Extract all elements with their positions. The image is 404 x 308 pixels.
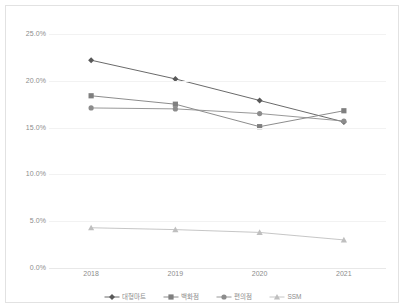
data-point-marker (88, 57, 94, 63)
gridline (49, 268, 386, 269)
data-point-marker (257, 97, 263, 103)
y-axis-tick-label: 10.0% (8, 170, 46, 177)
series-line (91, 60, 344, 122)
data-point-marker (173, 102, 178, 107)
chart-frame: 25.0%20.0%15.0%10.0%5.0%0.0% 20182019202… (5, 5, 399, 303)
x-axis-tick-label: 2018 (83, 270, 99, 277)
legend-diamond-marker-icon (104, 287, 120, 305)
chart-series-layer (49, 34, 386, 268)
gridline (49, 174, 386, 175)
data-point-marker (257, 111, 262, 116)
series-line (91, 108, 344, 121)
x-axis-tick-label: 2021 (336, 270, 352, 277)
series-triangle (88, 225, 347, 243)
series-line (91, 228, 344, 240)
legend-item-circle[interactable]: 편의점 (216, 287, 252, 305)
gridline (49, 128, 386, 129)
legend-item-label: 백화점 (181, 291, 199, 301)
series-circle (89, 105, 347, 123)
gridline (49, 81, 386, 82)
legend-item-label: SSM (287, 293, 301, 300)
y-axis-tick-label: 15.0% (8, 124, 46, 131)
gridline (49, 34, 386, 35)
legend-item-triangle[interactable]: SSM (269, 287, 301, 305)
chart-legend: 대형마트백화점편의점SSM (6, 287, 400, 305)
data-point-marker (173, 106, 178, 111)
data-point-marker (222, 294, 227, 299)
legend-item-square[interactable]: 백화점 (163, 287, 199, 305)
legend-circle-marker-icon (216, 287, 232, 305)
data-point-marker (89, 93, 94, 98)
x-axis-tick-label: 2020 (252, 270, 268, 277)
plot-area (49, 34, 386, 268)
data-point-marker (89, 105, 94, 110)
legend-triangle-marker-icon (269, 287, 285, 305)
y-axis-tick-label: 0.0% (8, 264, 46, 271)
legend-item-label: 편의점 (234, 291, 252, 301)
data-point-marker (341, 118, 346, 123)
legend-item-diamond[interactable]: 대형마트 (104, 287, 146, 305)
x-axis: 2018201920202021 (49, 270, 386, 284)
x-axis-tick-label: 2019 (167, 270, 183, 277)
legend-item-label: 대형마트 (122, 291, 146, 301)
data-point-marker (169, 294, 174, 299)
y-axis: 25.0%20.0%15.0%10.0%5.0%0.0% (6, 34, 46, 268)
y-axis-tick-label: 20.0% (8, 77, 46, 84)
y-axis-tick-label: 5.0% (8, 217, 46, 224)
legend-square-marker-icon (163, 287, 179, 305)
gridline (49, 221, 386, 222)
data-point-marker (341, 108, 346, 113)
series-diamond (88, 57, 347, 125)
data-point-marker (109, 294, 115, 300)
y-axis-tick-label: 25.0% (8, 30, 46, 37)
